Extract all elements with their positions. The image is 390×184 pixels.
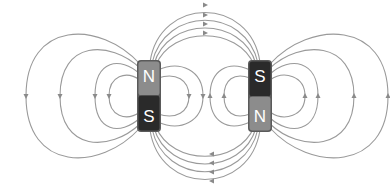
top-arcs (150, 3, 260, 66)
arrow-down-icon (24, 94, 29, 99)
arrow-up-icon (316, 93, 321, 98)
arrow-down-icon (187, 94, 192, 99)
left-magnet: N S (137, 60, 161, 132)
arrow-right-icon (203, 31, 208, 36)
field-lines-svg: N S S N (0, 0, 390, 184)
arrow-left-icon (209, 170, 214, 175)
arrow-up-icon (208, 93, 213, 98)
magnetic-field-diagram: Magnetic field lines between two bar mag… (0, 0, 390, 184)
arrow-down-icon (107, 94, 112, 99)
inner-left-loops (158, 66, 206, 126)
arrow-up-icon (352, 93, 357, 98)
arrow-up-icon (222, 93, 227, 98)
arrow-down-icon (58, 94, 63, 99)
right-outer-loops (270, 34, 390, 158)
left-outer-loops (24, 34, 141, 158)
right-magnet-top-pole-label: S (254, 67, 265, 86)
arrow-right-icon (203, 22, 208, 27)
arrow-right-icon (203, 3, 208, 8)
arrow-right-icon (203, 13, 208, 18)
arrow-up-icon (386, 93, 390, 98)
arrow-down-icon (93, 94, 98, 99)
right-magnet: S N (248, 60, 272, 132)
left-magnet-bottom-pole-label: S (143, 107, 154, 126)
bottom-arcs (150, 127, 260, 184)
right-magnet-bottom-pole-label: N (254, 107, 266, 126)
arrow-left-icon (209, 161, 214, 166)
arrow-down-icon (201, 94, 206, 99)
left-magnet-top-pole-label: N (143, 67, 155, 86)
arrow-up-icon (303, 93, 308, 98)
inner-right-loops (208, 66, 251, 126)
